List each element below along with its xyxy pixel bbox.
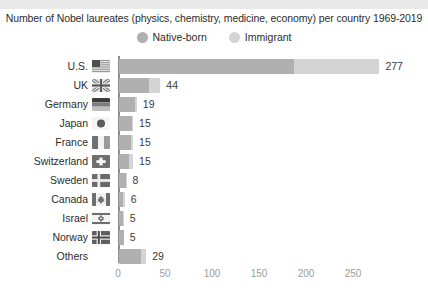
bar-segment-native-born (119, 249, 141, 264)
germany-flag-icon (92, 98, 110, 111)
norway-flag-icon (92, 231, 110, 244)
bar-row: Japan15 (0, 114, 428, 133)
bar-segment-native-born (119, 59, 294, 74)
bar-value-label: 8 (133, 174, 139, 186)
category-label: France (2, 136, 88, 148)
legend-label-native-born: Native-born (153, 31, 207, 43)
bar-segment-immigrant (294, 59, 380, 74)
category-label: Norway (2, 231, 88, 243)
legend-label-immigrant: Immigrant (245, 31, 292, 43)
bar-segment-immigrant (135, 97, 137, 112)
bar-segment-immigrant (129, 154, 133, 169)
bar-value-label: 5 (130, 231, 136, 243)
bar-row: UK44 (0, 76, 428, 95)
category-label: Sweden (2, 174, 88, 186)
israel-flag-icon (92, 212, 110, 225)
bar-segment-immigrant (123, 211, 124, 226)
bar-row: Sweden8 (0, 171, 428, 190)
bar-value-label: 6 (131, 193, 137, 205)
x-axis-tick-label: 250 (345, 268, 362, 279)
bar-row: U.S.277 (0, 57, 428, 76)
stacked-bar (119, 116, 133, 131)
uk-flag-icon (92, 79, 110, 92)
stacked-bar (119, 59, 379, 74)
bar-segment-immigrant (132, 116, 133, 131)
category-label: Switzerland (2, 155, 88, 167)
japan-flag-icon (92, 117, 110, 130)
bar-segment-immigrant (126, 173, 127, 188)
bar-segment-immigrant (141, 249, 147, 264)
legend-item-native-born: Native-born (137, 31, 207, 43)
stacked-bar (119, 135, 133, 150)
stacked-bar (119, 211, 124, 226)
top-edge-band (0, 0, 428, 9)
stacked-bar (119, 249, 146, 264)
us-flag-icon (92, 60, 110, 73)
bar-row: France15 (0, 133, 428, 152)
stacked-bar (119, 154, 133, 169)
bar-value-label: 5 (130, 212, 136, 224)
sweden-flag-icon (92, 174, 110, 187)
bar-value-label: 29 (152, 250, 164, 262)
bar-row: Others29 (0, 247, 428, 266)
x-axis-tick-label: 150 (251, 268, 268, 279)
switzerland-flag-icon (92, 155, 110, 168)
bar-segment-native-born (119, 78, 149, 93)
legend-item-immigrant: Immigrant (229, 31, 292, 43)
stacked-bar (119, 97, 137, 112)
x-axis-tick-label: 200 (298, 268, 315, 279)
category-label: Canada (2, 193, 88, 205)
bar-segment-native-born (119, 116, 132, 131)
bar-segment-native-born (119, 97, 135, 112)
bar-value-label: 15 (139, 117, 151, 129)
x-axis: 050100150200250 (0, 268, 428, 288)
plot-area: U.S.277UK44Germany19Japan15France15Switz… (0, 56, 428, 266)
bar-row: Canada6 (0, 190, 428, 209)
bar-segment-native-born (119, 230, 124, 245)
legend-swatch-immigrant (229, 32, 240, 43)
bar-value-label: 277 (385, 60, 403, 72)
x-axis-tick-label: 100 (204, 268, 221, 279)
stacked-bar (119, 230, 124, 245)
chart-title: Number of Nobel laureates (physics, chem… (0, 12, 428, 24)
stacked-bar (119, 173, 127, 188)
category-label: UK (2, 79, 88, 91)
bar-segment-native-born (119, 173, 126, 188)
bar-row: Switzerland15 (0, 152, 428, 171)
category-label: U.S. (2, 60, 88, 72)
bar-value-label: 15 (139, 155, 151, 167)
stacked-bar (119, 78, 160, 93)
canada-flag-icon (92, 193, 110, 206)
bar-segment-native-born (119, 135, 131, 150)
category-label: Israel (2, 212, 88, 224)
bar-segment-native-born (119, 154, 129, 169)
bar-segment-immigrant (149, 78, 160, 93)
category-label: Japan (2, 117, 88, 129)
bar-row: Germany19 (0, 95, 428, 114)
x-axis-tick-label: 50 (159, 268, 170, 279)
bar-segment-immigrant (123, 192, 125, 207)
bar-row: Israel5 (0, 209, 428, 228)
bar-row: Norway5 (0, 228, 428, 247)
stacked-bar (119, 192, 125, 207)
bar-value-label: 15 (139, 136, 151, 148)
bar-segment-immigrant (131, 135, 133, 150)
category-label: Others (2, 250, 88, 262)
legend-swatch-native-born (137, 32, 148, 43)
bar-value-label: 44 (166, 79, 178, 91)
category-label: Germany (2, 98, 88, 110)
nobel-laureates-chart: Number of Nobel laureates (physics, chem… (0, 0, 428, 296)
x-axis-tick-label: 0 (115, 268, 121, 279)
bar-value-label: 19 (143, 98, 155, 110)
france-flag-icon (92, 136, 110, 149)
chart-legend: Native-born Immigrant (0, 31, 428, 43)
